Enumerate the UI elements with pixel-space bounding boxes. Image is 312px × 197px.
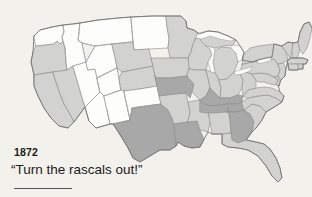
- state-connecticut: [288, 64, 298, 70]
- state-dakota-territory: [131, 16, 169, 50]
- state-iowa: [151, 58, 189, 78]
- state-new-jersey: [278, 63, 286, 80]
- caption-year: 1872: [14, 146, 174, 158]
- state-maine: [298, 22, 312, 54]
- state-florida: [222, 133, 282, 182]
- state-rhode-island: [298, 64, 303, 69]
- state-oregon: [31, 41, 67, 75]
- election-map-figure: 1872 “Turn the rascals out!”: [0, 0, 312, 197]
- caption-underline-rule: [14, 188, 72, 189]
- map-caption: 1872 “Turn the rascals out!”: [14, 146, 174, 178]
- caption-slogan: “Turn the rascals out!”: [11, 162, 174, 178]
- state-montana-territory: [78, 17, 133, 46]
